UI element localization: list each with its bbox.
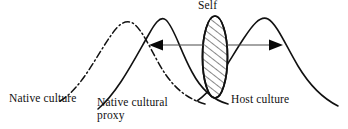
label-native-cultural-proxy-line1: Native cultural [97, 96, 168, 108]
label-native-cultural-proxy-line2: proxy [97, 109, 125, 121]
self-hatched-ellipse [198, 12, 234, 104]
left-arrow [149, 40, 204, 51]
label-native-cultural-proxy: Native culturalproxy [97, 96, 168, 122]
label-native-culture: Native culture [9, 92, 77, 105]
right-arrow [227, 40, 283, 51]
diagram-canvas [0, 0, 348, 129]
label-host-culture: Host culture [231, 93, 289, 106]
culture-adaptation-diagram: Self Native culture Native culturalproxy… [0, 0, 348, 129]
label-self: Self [198, 0, 217, 12]
